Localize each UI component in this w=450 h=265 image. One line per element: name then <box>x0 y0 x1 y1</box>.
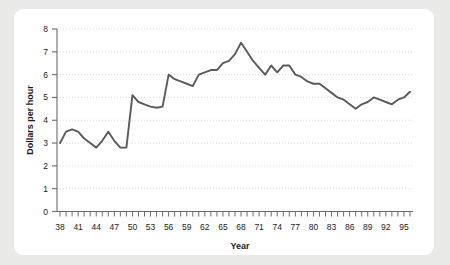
x-axis-title: Year <box>230 241 250 251</box>
y-tick-label: 2 <box>43 161 48 171</box>
data-line-series <box>60 43 410 148</box>
x-tick-label: 47 <box>110 222 120 232</box>
x-tick-label: 44 <box>91 222 101 232</box>
y-tick-label: 4 <box>43 115 48 125</box>
x-tick-label: 86 <box>345 222 355 232</box>
x-tick-label: 92 <box>381 222 391 232</box>
x-tick-label: 71 <box>254 222 264 232</box>
y-tick-label: 7 <box>43 47 48 57</box>
x-tick-label: 68 <box>236 222 246 232</box>
x-tick-label: 80 <box>309 222 319 232</box>
x-tick-label: 41 <box>73 222 83 232</box>
x-axis-tick-labels: 3841444750535659626568717477808386899295 <box>55 222 409 232</box>
x-tick-label: 83 <box>327 222 337 232</box>
line-chart: 012345678 384144475053565962656871747780… <box>0 0 450 265</box>
y-tick-label: 6 <box>43 70 48 80</box>
y-axis-tick-labels: 012345678 <box>43 24 48 217</box>
x-axis-ticks <box>60 212 410 217</box>
x-tick-label: 77 <box>291 222 301 232</box>
x-tick-label: 50 <box>128 222 138 232</box>
x-tick-label: 62 <box>200 222 210 232</box>
x-tick-label: 89 <box>363 222 373 232</box>
y-tick-label: 0 <box>43 207 48 217</box>
y-axis-title: Dollars per hour <box>25 85 35 155</box>
x-tick-label: 74 <box>273 222 283 232</box>
y-tick-label: 3 <box>43 138 48 148</box>
x-tick-label: 38 <box>55 222 65 232</box>
gridlines <box>57 29 413 212</box>
y-tick-label: 5 <box>43 92 48 102</box>
x-tick-label: 65 <box>218 222 228 232</box>
x-tick-label: 53 <box>146 222 156 232</box>
x-tick-label: 59 <box>182 222 192 232</box>
x-tick-label: 56 <box>164 222 174 232</box>
x-tick-label: 95 <box>399 222 409 232</box>
y-axis-ticks <box>52 29 57 212</box>
y-tick-label: 1 <box>43 184 48 194</box>
y-tick-label: 8 <box>43 24 48 34</box>
